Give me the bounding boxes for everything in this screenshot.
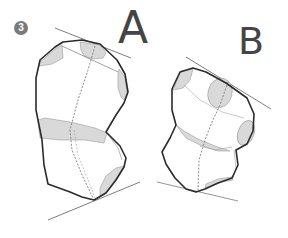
shape-b-facet-right-oval [234,118,258,148]
step-number-badge: 3 [14,21,28,35]
shape-a-center-axis [70,46,95,198]
shape-a [36,28,140,220]
shape-a-facet-upper-left [39,45,63,66]
label-a: A [118,6,148,50]
shape-a-facet-band [38,118,107,143]
shape-a-bottom-tangent [48,182,140,220]
shape-b [157,57,271,201]
label-b: B [238,22,264,60]
shape-a-facet-lower-right [100,166,124,196]
